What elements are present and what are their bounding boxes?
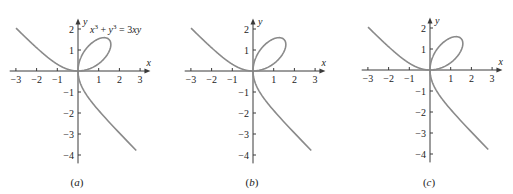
x-tick-label: −3 (11, 74, 22, 85)
x-axis-arrow-icon (319, 69, 325, 74)
x-tick-label: −2 (383, 73, 394, 84)
x-tick-label: −2 (31, 74, 42, 85)
y-tick-label: −4 (415, 149, 426, 160)
y-axis-label: y (82, 16, 88, 27)
x-tick-label: −3 (363, 73, 374, 84)
folium-branch (430, 71, 488, 149)
y-tick-label: 2 (421, 23, 426, 34)
x-tick-label: −1 (52, 74, 63, 85)
x-tick-label: 3 (138, 74, 143, 85)
y-tick-label: −3 (63, 129, 74, 140)
y-tick-label: 1 (69, 45, 74, 56)
y-tick-label: −4 (238, 150, 249, 161)
y-axis-label: y (434, 15, 440, 26)
x-tick-label: −1 (404, 73, 415, 84)
x-tick-label: 1 (448, 73, 453, 84)
y-tick-label: −4 (63, 150, 74, 161)
x-axis-label: x (320, 57, 326, 68)
panel-c: xy−3−2−112321−1−2−3−4(c) (362, 15, 504, 190)
x-axis-label: x (497, 56, 503, 67)
y-axis-arrow-icon (428, 18, 433, 24)
panel-caption: (c) (423, 176, 436, 189)
folium-loop (430, 37, 463, 70)
y-tick-label: −2 (238, 108, 249, 119)
panel-b: xy−3−2−112321−1−2−3−4(b) (185, 16, 327, 190)
equation-label: x3 + y3 = 3xy (89, 23, 142, 35)
y-tick-label: −3 (238, 129, 249, 140)
x-tick-label: 2 (292, 74, 297, 85)
y-axis-arrow-icon (76, 19, 81, 25)
y-tick-label: −1 (238, 87, 249, 98)
y-axis-arrow-icon (251, 19, 256, 25)
x-tick-label: 2 (117, 74, 122, 85)
y-tick-label: 2 (244, 24, 249, 35)
y-tick-label: 1 (421, 44, 426, 55)
folium-branch (253, 72, 311, 150)
y-tick-label: −3 (415, 128, 426, 139)
folium-figure: xy−3−2−112321−1−2−3−4x3 + y3 = 3xy(a) xy… (0, 0, 513, 194)
panel-a: xy−3−2−112321−1−2−3−4x3 + y3 = 3xy(a) (10, 16, 152, 190)
x-tick-label: 1 (271, 74, 276, 85)
y-axis-label: y (257, 16, 263, 27)
x-tick-label: 3 (313, 74, 318, 85)
y-tick-label: −1 (63, 87, 74, 98)
y-tick-label: −1 (415, 86, 426, 97)
folium-branch (78, 72, 136, 150)
x-tick-label: −2 (206, 74, 217, 85)
x-tick-label: 1 (96, 74, 101, 85)
panel-caption: (b) (246, 176, 259, 189)
x-tick-label: 3 (490, 73, 495, 84)
y-tick-label: −2 (63, 108, 74, 119)
x-axis-label: x (145, 57, 151, 68)
y-tick-label: 1 (244, 45, 249, 56)
folium-loop (78, 38, 111, 71)
x-tick-label: 2 (469, 73, 474, 84)
y-tick-label: 2 (69, 24, 74, 35)
x-axis-arrow-icon (144, 69, 150, 74)
x-tick-label: −3 (186, 74, 197, 85)
y-tick-label: −2 (415, 107, 426, 118)
x-axis-arrow-icon (496, 68, 502, 73)
folium-loop (253, 38, 286, 71)
x-tick-label: −1 (227, 74, 238, 85)
panel-caption: (a) (71, 176, 84, 189)
